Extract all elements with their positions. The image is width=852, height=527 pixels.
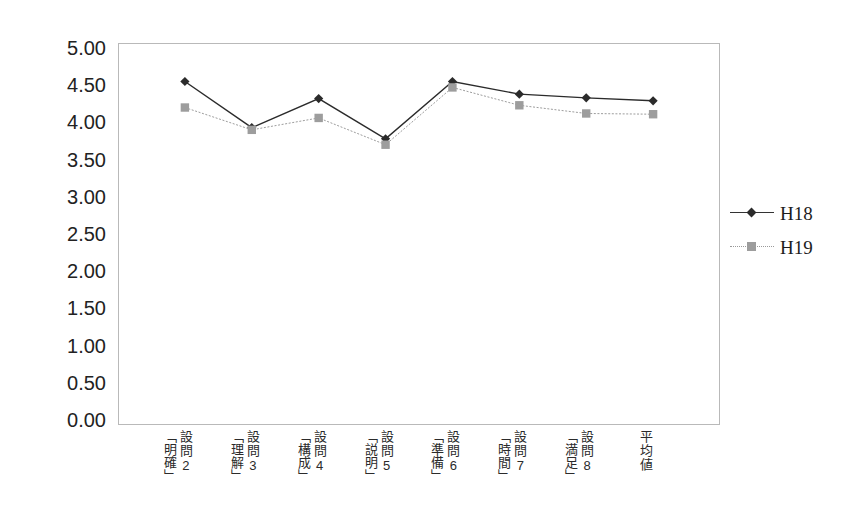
y-axis-tick-label: 0.00 [6, 410, 106, 430]
legend-label-h19: H19 [780, 238, 813, 257]
data-point-diamond [314, 94, 323, 103]
data-point-square [515, 101, 523, 109]
legend-label-h18: H18 [780, 204, 813, 223]
data-point-square [181, 103, 189, 111]
x-axis-tick-label: 設問3「理解」 [207, 430, 283, 482]
x-axis: 設問2「明確」設問3「理解」設問4「構成」設問5「説明」設問6「準備」設問7「時… [118, 430, 720, 525]
data-point-square [314, 114, 322, 122]
x-axis-label-main: 平均値 [639, 430, 654, 472]
x-axis-label-bracket: 「構成」 [296, 430, 311, 482]
data-point-square [381, 141, 389, 149]
x-axis-tick-label: 設問8「満足」 [541, 430, 617, 482]
legend-item-h18: H18 [730, 196, 848, 230]
y-axis-tick-label: 4.00 [6, 112, 106, 132]
y-axis-tick-label: 3.00 [6, 187, 106, 207]
x-axis-tick-label: 設問2「明確」 [140, 430, 216, 482]
x-axis-label-bracket: 「説明」 [363, 430, 378, 482]
x-axis-label-bracket: 「満足」 [564, 430, 579, 482]
x-axis-tick-label: 設問5「説明」 [341, 430, 417, 482]
legend-key-h19 [730, 239, 774, 255]
data-point-square [582, 109, 590, 117]
y-axis-tick-label: 1.00 [6, 336, 106, 356]
y-axis-tick-label: 5.00 [6, 38, 106, 58]
diamond-marker-icon [747, 208, 757, 218]
legend-key-h18 [730, 205, 774, 221]
x-axis-label-main: 設問7 [513, 430, 528, 474]
x-axis-label-main: 設問6 [446, 430, 461, 474]
y-axis-tick-label: 0.50 [6, 373, 106, 393]
plot-series-canvas [118, 43, 720, 425]
data-point-diamond [515, 90, 524, 99]
x-axis-label-main: 設問2 [178, 430, 193, 474]
x-axis-tick-label: 平均値 [608, 430, 684, 472]
data-point-diamond [649, 96, 658, 105]
x-axis-tick-label: 設問4「構成」 [274, 430, 350, 482]
y-axis-tick-label: 4.50 [6, 75, 106, 95]
data-point-square [448, 83, 456, 91]
x-axis-label-main: 設問4 [312, 430, 327, 474]
x-axis-label-bracket: 「理解」 [229, 430, 244, 482]
x-axis-tick-label: 設問7「時間」 [474, 430, 550, 482]
y-axis: 5.004.504.003.503.002.502.001.501.000.50… [0, 0, 112, 527]
y-axis-tick-label: 1.50 [6, 298, 106, 318]
chart-legend: H18 H19 [730, 196, 848, 264]
y-axis-tick-label: 2.00 [6, 261, 106, 281]
y-axis-tick-label: 2.50 [6, 224, 106, 244]
data-point-diamond [582, 93, 591, 102]
square-marker-icon [747, 242, 756, 251]
line-chart: 5.004.504.003.503.002.502.001.501.000.50… [0, 0, 852, 527]
data-point-square [649, 110, 657, 118]
x-axis-label-bracket: 「明確」 [162, 430, 177, 482]
x-axis-label-main: 設問8 [580, 430, 595, 474]
data-point-square [248, 126, 256, 134]
data-point-diamond [180, 77, 189, 86]
x-axis-label-bracket: 「時間」 [497, 430, 512, 482]
legend-item-h19: H19 [730, 230, 848, 264]
x-axis-label-main: 設問5 [379, 430, 394, 474]
x-axis-label-bracket: 「準備」 [430, 430, 445, 482]
x-axis-tick-label: 設問6「準備」 [407, 430, 483, 482]
y-axis-tick-label: 3.50 [6, 150, 106, 170]
x-axis-label-main: 設問3 [245, 430, 260, 474]
